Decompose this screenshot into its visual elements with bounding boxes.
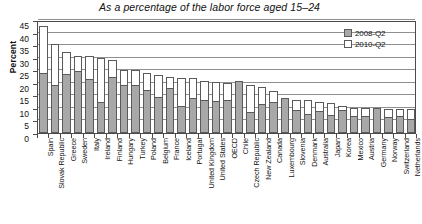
x-category-label: Czech Republic xyxy=(252,138,261,188)
x-category-label: Luxembourg xyxy=(287,138,296,177)
bar-group xyxy=(292,22,300,133)
bar-2008-q2 xyxy=(154,97,162,133)
x-category-label: Hungary xyxy=(126,138,135,165)
bar-group xyxy=(51,22,59,133)
bar-2010-q2 xyxy=(85,56,93,133)
bar-2010-q2 xyxy=(292,100,300,133)
x-category-label: Germany xyxy=(379,138,388,167)
bar-group xyxy=(281,22,289,133)
bar-group xyxy=(108,22,116,133)
bar-2010-q2 xyxy=(384,109,392,133)
bar-group xyxy=(177,22,185,133)
legend-swatch-icon xyxy=(344,29,352,37)
x-category-label: Switzerland xyxy=(402,138,411,175)
bar-2008-q2 xyxy=(373,108,381,133)
bar-2010-q2 xyxy=(212,82,220,133)
x-category-label: Portugal xyxy=(195,138,204,164)
bar-2008-q2 xyxy=(407,119,415,133)
x-category-label: Italy xyxy=(92,138,101,151)
x-category-label: Japan xyxy=(333,138,342,157)
x-category-label: United States xyxy=(218,138,227,181)
legend-label: 2008-Q2 xyxy=(355,29,385,38)
bar-2010-q2 xyxy=(177,78,185,133)
x-category-label: Denmark xyxy=(310,138,319,167)
bar-group xyxy=(97,22,105,133)
bar-2010-q2 xyxy=(189,78,197,133)
bar-2008-q2 xyxy=(62,74,70,133)
legend-label: 2010-Q2 xyxy=(355,40,385,49)
bar-2008-q2 xyxy=(85,79,93,133)
bar-2008-q2 xyxy=(200,100,208,133)
bar-2010-q2 xyxy=(108,60,116,133)
x-category-label: New Zealand xyxy=(264,138,273,180)
x-category-label: OECD xyxy=(230,138,239,159)
x-axis-category-labels: SpainSlovak RepublicGreeceSwedenItalyIre… xyxy=(37,138,416,224)
bar-2010-q2 xyxy=(281,98,289,133)
bar-2008-q2 xyxy=(51,85,59,133)
bar-2010-q2 xyxy=(350,108,358,133)
bar-2008-q2 xyxy=(39,73,47,133)
x-category-label: Poland xyxy=(149,138,158,160)
bar-group xyxy=(120,22,128,133)
bar-2010-q2 xyxy=(51,44,59,133)
bar-group xyxy=(131,22,139,133)
x-category-label: Austria xyxy=(367,138,376,160)
bar-2008-q2 xyxy=(120,85,128,133)
bar-2010-q2 xyxy=(304,100,312,133)
bar-2008-q2 xyxy=(315,111,323,133)
bar-2010-q2 xyxy=(39,26,47,133)
legend-entry: 2008-Q2 xyxy=(344,28,416,38)
bar-group xyxy=(189,22,197,133)
x-category-label: United Kingdom xyxy=(207,138,216,188)
x-category-label: Belgium xyxy=(161,138,170,164)
bar-2008-q2 xyxy=(350,116,358,133)
bar-2010-q2 xyxy=(338,106,346,133)
bar-2008-q2 xyxy=(281,98,289,133)
bar-2010-q2 xyxy=(246,85,254,133)
bar-group xyxy=(85,22,93,133)
bar-group xyxy=(143,22,151,133)
bar-2008-q2 xyxy=(189,98,197,133)
x-category-label: France xyxy=(172,138,181,160)
bar-2010-q2 xyxy=(223,83,231,133)
x-category-label: Korea xyxy=(344,138,353,157)
x-category-label: Canada xyxy=(275,138,284,163)
bar-2008-q2 xyxy=(166,88,174,133)
bar-2010-q2 xyxy=(131,70,139,133)
bar-2008-q2 xyxy=(97,102,105,133)
chart-legend: 2008-Q22010-Q2 xyxy=(344,28,416,50)
bar-2008-q2 xyxy=(223,100,231,133)
bar-group xyxy=(154,22,162,133)
bar-2008-q2 xyxy=(177,106,185,133)
bar-2010-q2 xyxy=(396,109,404,133)
bar-group xyxy=(39,22,47,133)
bar-2010-q2 xyxy=(361,108,369,133)
bar-2008-q2 xyxy=(304,114,312,133)
x-category-label: Sweden xyxy=(80,138,89,164)
x-category-label: Turkey xyxy=(138,138,147,159)
bar-2010-q2 xyxy=(97,58,105,133)
bar-2010-q2 xyxy=(315,102,323,133)
legend-swatch-icon xyxy=(344,40,352,48)
bar-2010-q2 xyxy=(74,56,82,133)
bar-group xyxy=(315,22,323,133)
bar-2008-q2 xyxy=(143,90,151,133)
bar-2010-q2 xyxy=(373,108,381,133)
x-category-label: Chile xyxy=(241,138,250,154)
bar-group xyxy=(223,22,231,133)
bar-2010-q2 xyxy=(269,91,277,133)
x-category-label: Greece xyxy=(69,138,78,161)
x-category-label: Finland xyxy=(115,138,124,161)
bar-2010-q2 xyxy=(235,81,243,133)
bar-2010-q2 xyxy=(143,73,151,133)
bar-2008-q2 xyxy=(108,77,116,133)
bar-group xyxy=(166,22,174,133)
bar-2008-q2 xyxy=(327,115,335,133)
bar-2008-q2 xyxy=(269,102,277,133)
bar-group xyxy=(304,22,312,133)
gridline xyxy=(38,19,415,20)
bar-2010-q2 xyxy=(154,75,162,133)
x-category-label: Australia xyxy=(321,138,330,166)
x-category-label: Iceland xyxy=(184,138,193,161)
